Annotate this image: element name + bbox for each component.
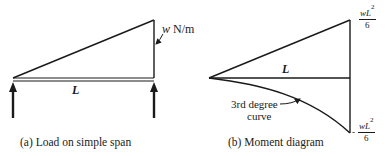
min-moment-exponent: 2	[370, 116, 374, 124]
load-intensity-label: w N/m	[162, 23, 194, 35]
min-moment-label: wL2 6	[358, 120, 375, 143]
min-moment-denominator: 6	[358, 133, 375, 143]
load-triangle	[13, 20, 154, 78]
curve-label-line2: curve	[247, 111, 271, 122]
curve-label-line1: 3rd degree	[231, 99, 278, 110]
max-moment-label: wL2 6	[359, 7, 376, 30]
load-unit: N/m	[173, 22, 194, 36]
caption-b: (b) Moment diagram	[228, 137, 324, 149]
max-moment-numerator: wL	[360, 8, 371, 18]
span-label-a: L	[72, 84, 79, 96]
min-moment-numerator: wL	[359, 121, 370, 131]
span-label-b: L	[282, 63, 289, 75]
right-reaction-arrow-icon	[150, 82, 158, 118]
caption-a: (a) Load on simple span	[20, 137, 131, 149]
min-moment-sign: -	[352, 128, 355, 137]
max-moment-exponent: 2	[371, 3, 375, 11]
load-symbol: w	[162, 22, 170, 36]
left-reaction-arrow-icon	[9, 82, 17, 118]
max-moment-denominator: 6	[359, 20, 376, 30]
beam	[13, 78, 154, 81]
